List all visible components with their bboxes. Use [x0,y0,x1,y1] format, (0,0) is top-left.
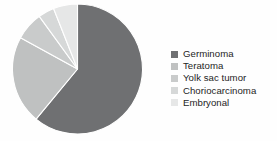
legend-item-label: Embryonal [183,98,229,108]
legend-item-embryonal[interactable]: Embryonal [171,97,277,109]
legend-item-label: Teratoma [183,61,223,71]
pie-chart-figure: Germinoma Teratoma Yolk sac tumor Chorio… [0,0,277,141]
chart-legend: Germinoma Teratoma Yolk sac tumor Chorio… [171,48,277,109]
legend-item-label: Choriocarcinoma [183,86,256,96]
legend-swatch-icon [171,51,178,58]
pie-chart-plot-area [0,0,165,141]
legend-swatch-icon [171,75,178,82]
legend-swatch-icon [171,87,178,94]
legend-item-teratoma[interactable]: Teratoma [171,60,277,72]
pie-slice-group [13,4,143,134]
legend-item-choriocarcinoma[interactable]: Choriocarcinoma [171,85,277,97]
legend-item-label: Yolk sac tumor [183,73,246,83]
pie-chart-svg [0,0,165,141]
legend-swatch-icon [171,63,178,70]
legend-swatch-icon [171,99,178,106]
legend-item-yolk-sac-tumor[interactable]: Yolk sac tumor [171,72,277,84]
legend-item-germinoma[interactable]: Germinoma [171,48,277,60]
legend-item-label: Germinoma [183,49,234,59]
